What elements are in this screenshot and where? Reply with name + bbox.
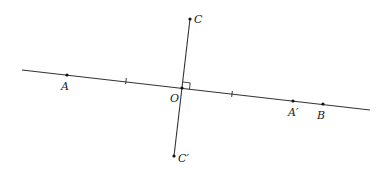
label-c: C — [194, 13, 203, 26]
line-AB — [22, 70, 370, 110]
label-a: A — [60, 80, 69, 93]
point-a-prime — [291, 99, 294, 102]
point-c-prime — [172, 154, 175, 157]
label-a-prime: A′ — [287, 106, 299, 119]
label-c-prime: C′ — [178, 152, 189, 165]
label-o: O — [170, 92, 179, 105]
points — [65, 17, 324, 157]
label-b: B — [316, 109, 325, 122]
tick-mark-1 — [126, 78, 127, 84]
point-c — [188, 17, 191, 20]
point-labels: AOA′BCC′ — [60, 13, 325, 165]
point-b — [321, 102, 324, 105]
geometry-diagram: AOA′BCC′ — [0, 0, 387, 177]
point-o — [180, 86, 183, 89]
tick-mark-2 — [232, 91, 233, 97]
point-a — [65, 73, 68, 76]
